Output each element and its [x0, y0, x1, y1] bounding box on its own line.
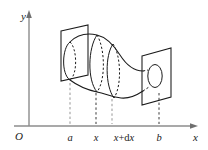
- section-b-join-bottom: [143, 87, 149, 91]
- tick-label-x-plus-dx: x+dx: [113, 132, 135, 143]
- origin-label: O: [15, 130, 23, 142]
- section-a-front-arc: [64, 42, 70, 80]
- tick-label-x: x: [93, 132, 99, 143]
- cross-section-at-x: [90, 35, 104, 92]
- upper-profile-curve: [70, 34, 143, 71]
- xdx-var-2: x: [129, 132, 135, 143]
- y-axis-arrowhead: [26, 10, 32, 18]
- y-axis-label: y: [20, 10, 26, 22]
- figure-canvas: y x O a x x+dx b: [0, 0, 208, 150]
- x-axis-arrowhead: [190, 123, 198, 129]
- section-a-back-arc: [70, 42, 76, 80]
- cross-section-at-a: [64, 42, 76, 80]
- right-cutting-plane: [142, 48, 171, 105]
- section-b-ellipse: [148, 65, 162, 88]
- tick-label-b: b: [156, 132, 161, 143]
- solid-of-revolution-figure: y x O a x x+dx b: [0, 0, 208, 150]
- section-x-back-arc: [97, 35, 103, 92]
- section-x-front-arc: [90, 35, 97, 92]
- right-plane-outline: [142, 48, 171, 105]
- solid-body: [70, 34, 143, 98]
- axis-group: [14, 10, 198, 129]
- x-axis-label: x: [192, 131, 198, 143]
- lower-profile-curve: [70, 80, 143, 98]
- section-b-join-top: [143, 70, 148, 71]
- tick-label-a: a: [67, 132, 72, 143]
- section-xdx-front-arc: [107, 44, 114, 98]
